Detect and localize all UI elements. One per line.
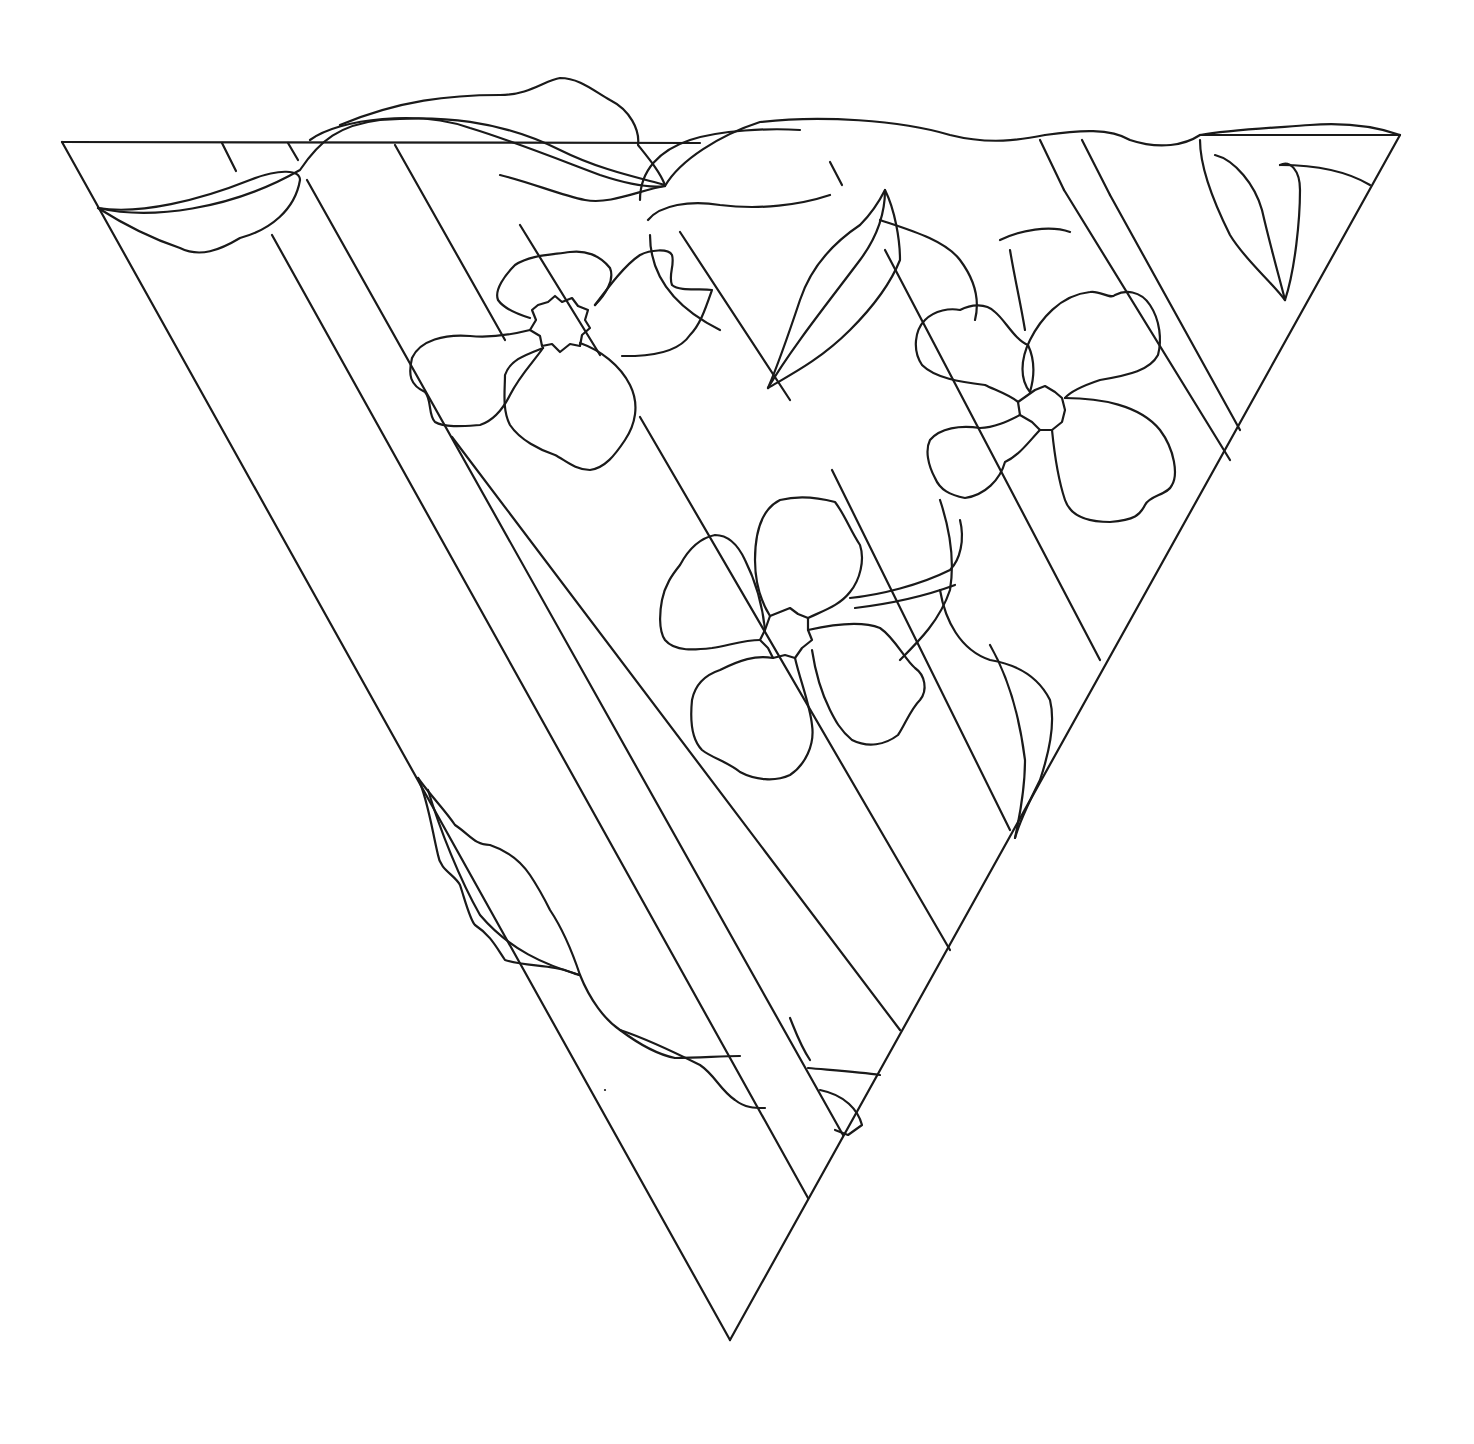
flower-center (760, 608, 812, 658)
triangle-frame (62, 135, 1400, 1340)
flower-center (1018, 386, 1065, 430)
petal (410, 330, 543, 426)
petal (497, 252, 611, 318)
stained-glass-pattern (0, 0, 1474, 1444)
flower-upper-left (410, 250, 712, 470)
petal (660, 535, 765, 650)
line-art-canvas (0, 0, 1474, 1444)
flower-lower (660, 497, 924, 779)
top-vines (98, 78, 1400, 300)
petal (755, 497, 862, 618)
petal (1023, 292, 1160, 398)
vine-stems (850, 229, 1070, 838)
petal (504, 343, 635, 470)
petal (928, 415, 1040, 498)
petal (691, 657, 812, 779)
bottom-vines (580, 975, 880, 1135)
flower-right (916, 292, 1175, 522)
petal (808, 624, 925, 745)
diagonal-stripes (222, 140, 1240, 1198)
petal (1052, 398, 1175, 522)
petal (595, 250, 712, 356)
leaf-lower-left (418, 778, 580, 975)
